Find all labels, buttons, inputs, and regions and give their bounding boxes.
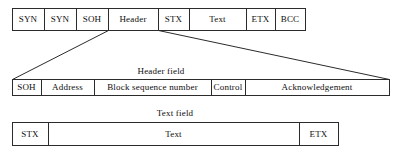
frame-cell-label: SYN bbox=[12, 15, 44, 24]
frame-cell-label: STX bbox=[158, 15, 189, 24]
frame-cell-label: ETX bbox=[246, 15, 275, 24]
text-field-cell-label: STX bbox=[12, 129, 48, 138]
frame-format-diagram: SYNSYNSOHHeaderSTXTextETXBCCSOHAddressBl… bbox=[0, 0, 401, 152]
diagram-rows bbox=[13, 9, 390, 146]
frame-cell-label: BCC bbox=[275, 15, 305, 24]
frame-cell-label: Text bbox=[189, 15, 246, 24]
header-field-cell-label: Block sequence number bbox=[94, 83, 211, 92]
header-field-cell-label: Address bbox=[41, 83, 94, 92]
header-field-cell-label: Control bbox=[211, 83, 245, 92]
header-field-caption: Header field bbox=[81, 67, 241, 76]
frame-cell-label: Header bbox=[108, 15, 158, 24]
frame-cell-label: SYN bbox=[44, 15, 76, 24]
text-field-caption: Text field bbox=[95, 109, 255, 118]
text-field-cell-label: ETX bbox=[299, 129, 338, 138]
header-field-cell-label: SOH bbox=[12, 83, 41, 92]
frame-cell-label: SOH bbox=[76, 15, 108, 24]
text-field-cell-label: Text bbox=[48, 129, 299, 138]
header-field-cell-label: Acknowledgement bbox=[245, 83, 389, 92]
